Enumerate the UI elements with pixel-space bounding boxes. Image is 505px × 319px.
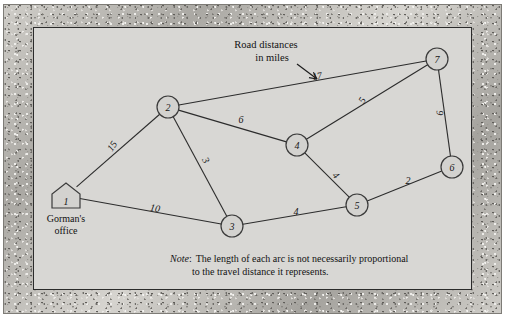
note-label: Note (169, 253, 189, 264)
callout-line1: Road distances (234, 39, 297, 50)
callout-line2: in miles (255, 52, 289, 63)
edges-layer (77, 61, 451, 224)
note-block: Note:The length of each arc is not neces… (169, 253, 409, 264)
office-label-line1: Gorman's (47, 213, 86, 224)
node-7: 7 (426, 48, 448, 70)
edge-weight-3-5: 4 (294, 206, 299, 217)
node-5: 5 (346, 194, 368, 216)
edge-4-5 (305, 153, 349, 197)
note-line1: The length of each arc is not necessaril… (196, 253, 409, 264)
node-1: 1 (52, 183, 80, 208)
node-3: 3 (221, 215, 243, 237)
edge-2-3 (173, 117, 227, 217)
network-graph: 1234567 1510176354429 Road distances in … (0, 0, 505, 319)
node-label-4: 4 (295, 140, 300, 151)
node-label-2: 2 (166, 102, 171, 113)
edge-2-4 (179, 110, 287, 142)
edge-1-2 (77, 114, 160, 187)
note-line2: to the travel distance it represents. (192, 266, 329, 277)
node-label-3: 3 (229, 221, 235, 232)
node-2: 2 (157, 96, 179, 118)
node-4: 4 (286, 134, 308, 156)
network-diagram-figure: 1234567 1510176354429 Road distances in … (0, 0, 505, 319)
node-6: 6 (441, 156, 463, 178)
node-label-1: 1 (64, 196, 69, 207)
edge-weight-2-3: 3 (200, 154, 213, 164)
edge-weight-1-3: 10 (149, 202, 161, 215)
edge-weight-2-4: 6 (239, 114, 244, 125)
edge-labels-layer: 1510176354429 (105, 70, 446, 217)
edge-5-6 (367, 171, 442, 201)
note-colon: : (189, 253, 192, 264)
edge-weight-5-6: 2 (406, 175, 411, 186)
node-label-6: 6 (450, 162, 455, 173)
edge-weight-7-6: 9 (434, 110, 445, 115)
node-label-5: 5 (355, 200, 360, 211)
edge-weight-4-7: 5 (356, 95, 368, 105)
office-label-line2: office (54, 225, 78, 236)
edge-weight-4-5: 4 (330, 169, 341, 180)
